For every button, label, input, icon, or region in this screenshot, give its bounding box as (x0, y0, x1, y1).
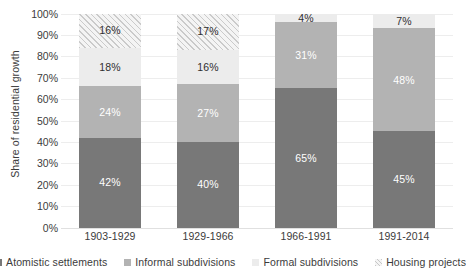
bar-stack[interactable]: 17%16%27%40% (177, 14, 239, 228)
bar-segment-value-label: 42% (99, 177, 120, 188)
bar-segment-value-label: 27% (197, 108, 218, 119)
bar-segment[interactable]: 4% (275, 14, 337, 23)
bar-segment-value-label: 40% (197, 179, 218, 190)
y-axis-tick: 90% (16, 29, 58, 41)
y-axis-tick: 30% (16, 157, 58, 169)
bar-segment[interactable]: 18% (79, 48, 141, 87)
bar-stack[interactable]: 7%48%45% (373, 14, 435, 228)
bar-segment[interactable]: 40% (177, 142, 239, 228)
bar-segment-value-label: 45% (393, 174, 414, 185)
bar-segment-value-label: 16% (197, 62, 218, 73)
bar-segment[interactable]: 7% (373, 14, 435, 29)
bars-layer: 16%18%24%42%17%16%27%40%4%31%65%7%48%45% (61, 14, 453, 228)
bar-slot: 17%16%27%40% (159, 14, 257, 228)
x-axis-tick: 1991-2014 (355, 230, 453, 242)
chart-legend: Atomistic settlementsInformal subdivisio… (0, 256, 461, 268)
legend-item[interactable]: Formal subdivisions (252, 256, 358, 268)
bar-segment-value-label: 17% (197, 26, 218, 37)
swatch-informal-subdivisions-icon (124, 259, 131, 266)
bar-segment[interactable]: 45% (373, 131, 435, 227)
legend-item-label: Housing projects (386, 256, 466, 268)
bar-segment[interactable]: 27% (177, 84, 239, 142)
gridline (61, 228, 453, 229)
bar-slot: 7%48%45% (355, 14, 453, 228)
bar-segment[interactable]: 42% (79, 138, 141, 228)
x-axis-tick: 1903-1929 (61, 230, 159, 242)
bar-segment[interactable]: 17% (177, 14, 239, 50)
bar-stack[interactable]: 4%31%65% (275, 14, 337, 228)
swatch-atomistic-settlements-icon (0, 259, 2, 266)
bar-slot: 4%31%65% (257, 14, 355, 228)
bar-segment-value-label: 24% (99, 107, 120, 118)
y-axis-tick: 80% (16, 50, 58, 62)
bar-segment[interactable]: 65% (275, 88, 337, 227)
legend-item[interactable]: Housing projects (375, 256, 466, 268)
bar-segment-value-label: 65% (295, 153, 316, 164)
bar-segment-value-label: 7% (396, 16, 411, 27)
legend-item[interactable]: Informal subdivisions (124, 256, 235, 268)
bar-segment-value-label: 16% (99, 25, 120, 36)
x-axis-tick-labels: 1903-19291929-19661966-19911991-2014 (61, 230, 453, 242)
bar-segment-value-label: 4% (298, 13, 313, 24)
bar-stack[interactable]: 16%18%24%42% (79, 14, 141, 228)
y-axis-tick-labels: 100%90%80%70%60%50%40%30%20%10%0% (16, 8, 58, 233)
swatch-housing-projects-icon (375, 259, 382, 266)
y-axis-tick: 50% (16, 115, 58, 127)
bar-segment[interactable]: 16% (79, 14, 141, 48)
legend-item-label: Atomistic settlements (6, 256, 107, 268)
y-axis-tick: 70% (16, 72, 58, 84)
bar-segment-value-label: 31% (295, 50, 316, 61)
x-axis-tick: 1929-1966 (159, 230, 257, 242)
y-axis-tick: 40% (16, 136, 58, 148)
legend-item-label: Informal subdivisions (135, 256, 235, 268)
bar-segment[interactable]: 31% (275, 22, 337, 88)
bar-segment[interactable]: 16% (177, 50, 239, 84)
bar-segment[interactable]: 24% (79, 86, 141, 137)
bar-segment-value-label: 18% (99, 62, 120, 73)
y-axis-tick: 0% (16, 222, 58, 234)
y-axis-tick: 10% (16, 200, 58, 212)
legend-item[interactable]: Atomistic settlements (0, 256, 107, 268)
x-axis-tick: 1966-1991 (257, 230, 355, 242)
bar-segment[interactable]: 48% (373, 28, 435, 131)
y-axis-tick: 20% (16, 179, 58, 191)
y-axis-tick: 60% (16, 93, 58, 105)
y-axis-tick: 100% (16, 8, 58, 20)
legend-item-label: Formal subdivisions (263, 256, 358, 268)
bar-segment-value-label: 48% (393, 75, 414, 86)
bar-slot: 16%18%24%42% (61, 14, 159, 228)
plot-area: 16%18%24%42%17%16%27%40%4%31%65%7%48%45% (61, 14, 453, 228)
swatch-formal-subdivisions-icon (252, 259, 259, 266)
